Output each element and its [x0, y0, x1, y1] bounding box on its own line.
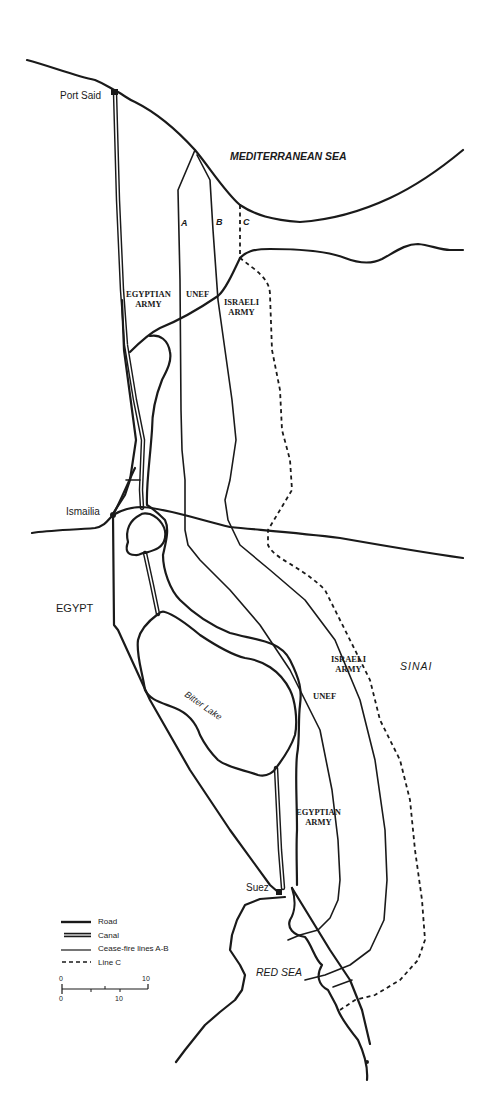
ismailia-marker [110, 512, 116, 518]
label-egyptian-army-north: EGYPTIAN ARMY [126, 290, 171, 310]
label-line-a: A [181, 219, 188, 228]
map-legend: Road Canal Cease-fire lines A-B Line C [60, 915, 169, 969]
label-port-said: Port Said [60, 91, 101, 101]
scale-bottom-end: 10 [115, 995, 123, 1002]
label-line-b: B [216, 218, 223, 227]
label-israeli-army-south: ISRAELI ARMY [331, 655, 366, 675]
gulf-of-suez-east-coast [289, 888, 367, 1080]
label-egypt: EGYPT [56, 603, 93, 614]
dashed-line-icon [60, 958, 92, 966]
lake-timsah [127, 513, 166, 555]
bitter-lake [138, 612, 297, 776]
label-suez: Suez [246, 883, 269, 893]
scale-bar-graphic [58, 975, 153, 1005]
label-unef-south: UNEF [313, 692, 336, 702]
scale-bar: 0 10 0 10 [58, 975, 153, 1005]
label-red-sea: RED SEA [256, 967, 302, 978]
legend-row-line-c: Line C [60, 956, 169, 970]
ceasefire-cross-south [333, 980, 352, 987]
label-egyptian-army-south: EGYPTIAN ARMY [296, 808, 341, 828]
ceasefire-line-icon [60, 945, 92, 953]
label-ismailia: Ismailia [66, 507, 100, 517]
ceasefire-line-b [197, 155, 387, 980]
scale-top-start: 0 [59, 975, 63, 982]
canal-line-icon [60, 931, 92, 939]
northern-east-road [240, 244, 463, 262]
road-suez-southeast [292, 888, 370, 1044]
label-sinai: SINAI [400, 661, 432, 672]
suez-marker [276, 889, 282, 895]
legend-row-road: Road [60, 915, 169, 929]
mediterranean-coastline [27, 60, 463, 222]
legend-row-canal: Canal [60, 929, 169, 943]
road-line-icon [60, 918, 92, 926]
port-said-marker [111, 89, 118, 95]
suez-canal [115, 92, 283, 888]
scale-top-end: 10 [142, 975, 150, 982]
label-line-c: C [243, 218, 250, 227]
label-mediterranean-sea: MEDITERRANEAN SEA [230, 151, 347, 162]
label-unef-north: UNEF [186, 290, 209, 300]
road-end-marker [365, 1060, 369, 1064]
scale-bottom-start: 0 [59, 995, 63, 1002]
gulf-of-suez-west-coast [176, 897, 285, 1062]
label-israeli-army-north: ISRAELI ARMY [224, 298, 259, 318]
legend-row-ceasefire: Cease-fire lines A-B [60, 942, 169, 956]
